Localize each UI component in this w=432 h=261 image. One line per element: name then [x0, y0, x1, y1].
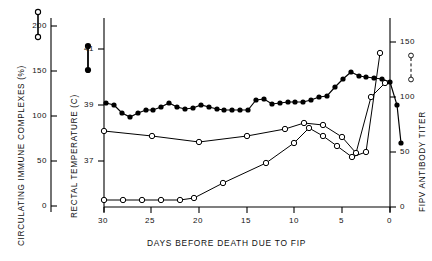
series-circulating-immune-complexes — [101, 80, 387, 155]
cic-tick-label-200: 200 — [21, 21, 47, 30]
series-rectal-temperature — [103, 69, 403, 145]
series-rectal-temperature-markers — [103, 69, 403, 145]
x-tick-label-0: 0 — [387, 216, 392, 225]
cic-tick-label-150: 150 — [21, 66, 47, 75]
cic-tick-label-0: 0 — [21, 201, 47, 210]
x-tick-label-25: 25 — [145, 216, 155, 225]
cic-tick-label-100: 100 — [21, 111, 47, 120]
titer-tick-label-100: 100 — [400, 92, 415, 101]
x-axis-title: DAYS BEFORE DEATH DUE TO FIP — [147, 238, 306, 248]
titer-axis-title: FIPV ANTIBODY TITER — [418, 111, 427, 212]
x-tick-label-10: 10 — [289, 216, 299, 225]
temperature-tick-label-37: 37 — [72, 156, 94, 165]
series-circulating-immune-complexes-markers — [101, 80, 387, 155]
x-tick-label-20: 20 — [193, 216, 203, 225]
x-tick-label-5: 5 — [339, 216, 344, 225]
temperature-axis — [98, 18, 104, 212]
titer-legend-marker-icon — [409, 53, 414, 82]
x-tick-label-15: 15 — [241, 216, 251, 225]
series-fipv-antibody-titer — [101, 50, 382, 202]
figure-root: CIRCULATING IMMUNE COMPLEXES (%) RECTAL … — [0, 0, 432, 261]
series-fipv-antibody-titer-markers — [101, 50, 382, 202]
titer-tick-label-50: 50 — [400, 147, 410, 156]
cic-tick-label-50: 50 — [21, 156, 47, 165]
cic-axis — [51, 18, 57, 212]
titer-tick-label-150: 150 — [400, 37, 415, 46]
temperature-tick-label-39: 39 — [72, 100, 94, 109]
x-axis — [104, 207, 390, 213]
x-tick-label-30: 30 — [98, 216, 108, 225]
temperature-tick-label-41: 41 — [72, 44, 94, 53]
chart-plot-area — [0, 0, 432, 261]
titer-tick-label-0: 0 — [400, 202, 405, 211]
titer-axis — [390, 18, 396, 212]
